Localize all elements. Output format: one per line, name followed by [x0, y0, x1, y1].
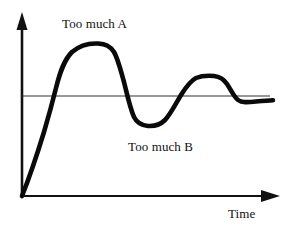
- x-axis-label: Time: [228, 207, 255, 221]
- response-curve: [22, 43, 273, 196]
- arrow-up-icon: [17, 12, 28, 30]
- response-curve-plot: [0, 0, 292, 231]
- undershoot-annotation: Too much B: [128, 140, 193, 154]
- overshoot-annotation: Too much A: [62, 17, 127, 31]
- process-response-figure: Too much A Too much B Time: [0, 0, 292, 231]
- arrow-right-icon: [261, 190, 280, 202]
